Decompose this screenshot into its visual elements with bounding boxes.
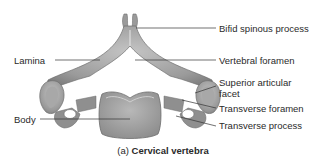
label-vertebral-foramen: Vertebral foramen	[219, 55, 295, 66]
left-transverse-foramen-shape	[64, 110, 76, 119]
right-transverse-foramen-shape	[182, 110, 194, 119]
vertebral-body-shape	[99, 92, 161, 139]
caption-prefix: (a)	[117, 145, 129, 156]
label-lamina: Lamina	[14, 55, 45, 66]
left-articular-process-shape	[40, 81, 80, 128]
label-superior-articular-facet-line2: facet	[219, 88, 240, 99]
bifid-spinous-process-shape	[46, 14, 214, 90]
label-body: Body	[14, 114, 36, 125]
label-transverse-foramen: Transverse foramen	[219, 103, 304, 114]
label-transverse-process: Transverse process	[219, 120, 302, 131]
caption-title: Cervical vertebra	[132, 145, 209, 156]
label-superior-articular-facet-line1: Superior articular	[219, 77, 291, 88]
figure-caption: (a) Cervical vertebra	[0, 145, 326, 156]
cervical-vertebra-diagram: Bifid spinous process Vertebral foramen …	[0, 0, 326, 168]
label-bifid-spinous-process: Bifid spinous process	[219, 23, 309, 34]
